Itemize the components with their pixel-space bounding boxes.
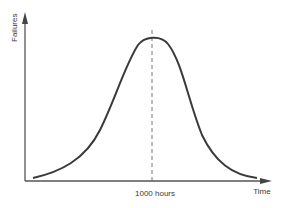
x-axis-arrow-icon [260, 178, 272, 184]
failure-curve-chart: Failures 1000 hours Time [0, 0, 286, 208]
x-axis-label: Time [253, 187, 271, 196]
failure-curve [33, 38, 257, 178]
y-axis-arrow-icon [22, 12, 28, 24]
marker-label: 1000 hours [135, 189, 175, 198]
y-axis-label: Failures [10, 14, 19, 42]
